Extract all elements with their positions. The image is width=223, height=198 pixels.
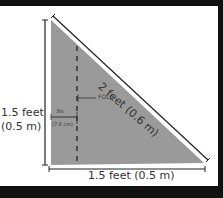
left-side-label-feet: 1.5 feet [1,106,44,120]
left-side-label: 1.5 feet (0.5 m) [1,106,44,134]
left-side-label-meters: (0.5 m) [1,120,44,134]
fold-offset-cm-label: (7.6 cm) [52,121,73,127]
bottom-side-label: 1.5 feet (0.5 m) [88,169,175,182]
fold-offset-inches-label: 3in [56,108,64,114]
triangle-shape [51,20,204,165]
fold-label: FOLD [98,93,114,100]
